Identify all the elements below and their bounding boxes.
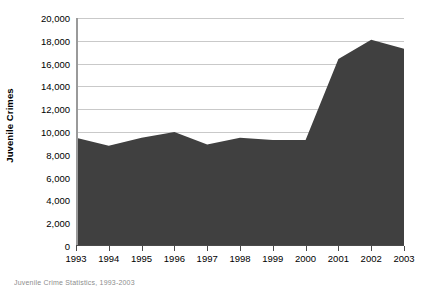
y-tick-label: 0 — [65, 241, 70, 252]
y-tick-label: 8,000 — [46, 149, 70, 160]
y-tick-label: 20,000 — [41, 13, 70, 24]
x-tick — [109, 246, 110, 251]
y-axis-tick-labels: 02,0004,0006,0008,00010,00012,00014,0001… — [18, 18, 74, 246]
area-series-juvenile-crimes — [76, 18, 404, 246]
y-tick-label: 2,000 — [46, 218, 70, 229]
x-tick-label: 1999 — [262, 253, 283, 264]
x-tick — [76, 246, 77, 251]
x-tick-label: 1993 — [65, 253, 86, 264]
y-tick-label: 6,000 — [46, 172, 70, 183]
x-tick — [142, 246, 143, 251]
x-tick — [306, 246, 307, 251]
y-tick-label: 16,000 — [41, 58, 70, 69]
x-axis-tick-labels: 1993199419951996199719981999200020012002… — [76, 253, 404, 267]
x-tick-label: 1998 — [229, 253, 250, 264]
x-tick-label: 1994 — [98, 253, 119, 264]
y-tick-label: 14,000 — [41, 81, 70, 92]
x-tick-label: 1997 — [197, 253, 218, 264]
x-tick — [338, 246, 339, 251]
x-tick — [273, 246, 274, 251]
figure-caption: Juvenile Crime Statistics, 1993-2003 — [14, 279, 135, 286]
x-tick — [404, 246, 405, 251]
x-tick-label: 1996 — [164, 253, 185, 264]
x-tick — [371, 246, 372, 251]
y-tick-label: 4,000 — [46, 195, 70, 206]
y-tick-label: 10,000 — [41, 127, 70, 138]
y-tick-label: 12,000 — [41, 104, 70, 115]
x-tick — [240, 246, 241, 251]
x-tick-label: 1995 — [131, 253, 152, 264]
x-tick-label: 2003 — [393, 253, 414, 264]
x-tick-label: 2001 — [328, 253, 349, 264]
area-chart-figure: Juvenile Crimes 02,0004,0006,0008,00010,… — [0, 0, 446, 292]
x-tick — [207, 246, 208, 251]
x-tick-label: 2000 — [295, 253, 316, 264]
x-tick-label: 2002 — [361, 253, 382, 264]
x-axis-ticks — [76, 246, 404, 252]
y-axis-line — [76, 18, 78, 246]
y-axis-title-label: Juvenile Crimes — [4, 88, 15, 162]
y-axis-title: Juvenile Crimes — [0, 0, 18, 250]
x-tick — [174, 246, 175, 251]
plot-area — [76, 18, 404, 246]
y-tick-label: 18,000 — [41, 35, 70, 46]
